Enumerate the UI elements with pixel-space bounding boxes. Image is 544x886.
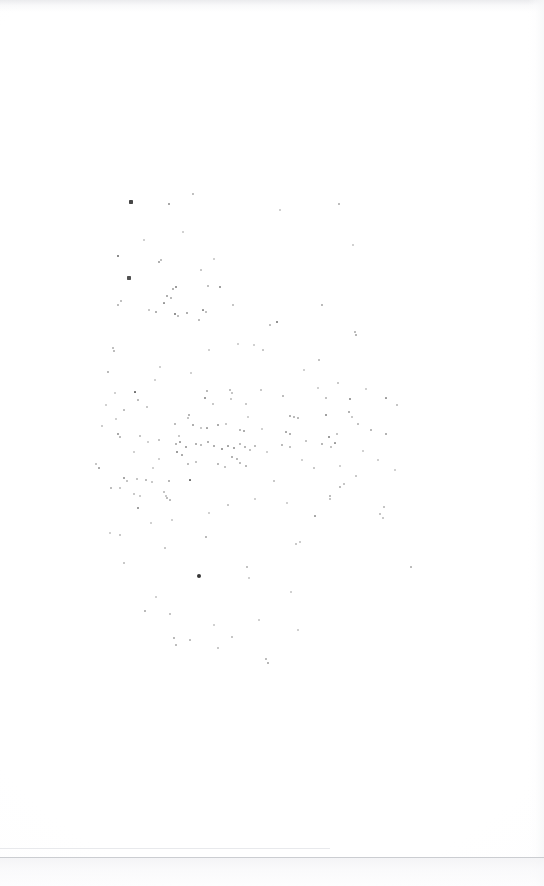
ink-speck [362,450,363,451]
ink-speck [286,502,287,503]
ink-speck [394,469,395,470]
ink-speck [236,458,238,460]
ink-speck [325,414,327,416]
ink-speck [219,286,221,288]
ink-speck [208,349,209,350]
ink-speck [107,371,109,373]
ink-speck [189,639,191,641]
ink-speck [152,467,153,468]
ink-speck [204,397,206,399]
ink-speck [349,398,351,400]
ink-speck [169,499,171,501]
ink-speck [185,446,187,448]
ink-speck [273,480,275,482]
ink-speck [227,445,229,447]
ink-speck [115,418,116,419]
ink-speck [165,495,167,497]
ink-speck [119,487,121,489]
ink-speck [110,487,112,489]
ink-speck [172,288,174,290]
ink-speck [158,458,159,459]
ink-speck [212,403,214,405]
ink-speck [317,387,318,388]
ink-speck [148,309,150,311]
ink-speck [290,591,291,592]
ink-speck [133,493,135,495]
ink-speck [354,331,356,333]
ink-speck [200,269,201,270]
ink-speck [186,312,188,314]
ink-speck [351,416,353,418]
ink-speck [225,423,227,425]
ink-speck [164,547,165,548]
ink-speck [123,477,125,479]
page-bottom-edge [0,857,544,858]
scanned-page [0,0,544,886]
ink-speck [119,534,121,536]
ink-speck [192,193,194,195]
ink-speck [318,359,320,361]
ink-speck [339,486,341,488]
ink-speck [295,543,297,545]
crease-line [0,848,330,849]
ink-speck [357,423,359,425]
ink-speck [338,203,340,205]
ink-speck [261,428,262,429]
ink-speck [155,596,156,597]
ink-speck [188,414,190,416]
ink-speck [339,465,340,466]
ink-speck [213,624,214,625]
ink-speck [166,295,168,297]
ink-speck [289,415,291,417]
ink-speck [385,397,387,399]
ink-speck [239,429,241,431]
ink-speck [126,480,128,482]
ink-speck [321,304,323,306]
ink-speck [217,647,219,649]
ink-speck [230,398,232,400]
ink-speck [246,566,248,568]
ink-speck [169,613,171,615]
ink-speck [151,481,153,483]
ink-speck [293,416,295,418]
ink-speck [139,495,140,496]
ink-speck [146,406,148,408]
ink-speck [239,462,241,464]
ink-speck [163,491,165,493]
ink-speck [383,506,385,508]
ink-speck [247,416,248,417]
ink-speck [176,451,178,453]
ink-speck [171,519,172,520]
ink-speck [243,430,245,432]
ink-speck [336,433,338,435]
ink-speck [198,319,200,321]
ink-speck [385,433,387,435]
ink-speck [267,662,269,664]
ink-speck [144,610,146,612]
ink-speck [355,334,357,336]
ink-speck [233,447,235,449]
ink-speck [134,391,137,394]
ink-speck [189,479,192,482]
ink-speck [301,459,302,460]
ink-speck [217,463,219,465]
ink-speck [231,392,233,394]
ink-speck [325,397,327,399]
ink-speck [182,231,183,232]
ink-speck [137,507,139,509]
ink-speck [370,429,372,431]
ink-speck [178,435,180,437]
ink-speck [187,463,189,465]
ink-speck [382,517,384,519]
ink-speck [365,388,366,389]
ink-speck [168,480,170,482]
ink-speck [95,463,97,465]
ink-speck [328,436,330,438]
ink-speck [158,439,160,441]
ink-speck [337,382,339,384]
ink-speck [348,411,350,413]
ink-speck [279,209,280,210]
ink-speck [227,504,228,505]
ink-speck [202,309,204,311]
ink-speck [289,433,291,435]
